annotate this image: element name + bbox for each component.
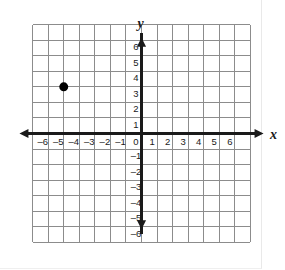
y-axis-tick-label: 3	[133, 88, 138, 99]
x-axis-tick-label: –4	[69, 136, 80, 147]
x-axis-tick-label: –6	[37, 136, 48, 147]
y-axis-tick-label: –2	[131, 166, 142, 177]
x-axis-tick-label: 2	[165, 136, 170, 147]
x-axis-label: x	[269, 127, 277, 142]
y-axis-tick-label: 6	[133, 41, 138, 52]
y-axis-tick-label: 2	[133, 103, 138, 114]
x-axis-tick-label: –5	[53, 136, 64, 147]
y-axis-label: y	[135, 16, 144, 31]
x-axis-arrow-left	[19, 129, 28, 138]
origin-label: 0	[133, 136, 138, 147]
x-axis-tick-label: 1	[149, 136, 154, 147]
x-axis-tick-label: –2	[100, 136, 111, 147]
x-axis-tick-label: –3	[84, 136, 95, 147]
x-axis-tick-label: 3	[181, 136, 186, 147]
x-axis-tick-label: 4	[196, 136, 201, 147]
x-axis-tick-label: 6	[227, 136, 232, 147]
axes	[19, 33, 263, 233]
coordinate-plane-svg: –6–5–4–3–2–1123456–6–5–4–3–2–11234560xy	[0, 0, 285, 270]
coordinate-plane-figure: –6–5–4–3–2–1123456–6–5–4–3–2–11234560xy	[0, 0, 285, 270]
y-axis-tick-label: 1	[133, 119, 138, 130]
data-points	[59, 82, 68, 91]
y-axis-tick-label: –6	[131, 228, 142, 239]
x-axis-arrow-right	[255, 129, 264, 138]
y-axis-tick-label: –1	[131, 150, 142, 161]
y-axis-tick-label: –5	[131, 212, 142, 223]
y-axis-tick-label: 5	[133, 57, 138, 68]
y-axis-tick-label: –3	[131, 181, 142, 192]
x-axis-tick-label: –1	[115, 136, 126, 147]
y-axis-tick-label: –4	[131, 197, 142, 208]
plotted-point	[59, 82, 68, 91]
x-axis-tick-label: 5	[212, 136, 217, 147]
y-axis-tick-label: 4	[133, 72, 138, 83]
